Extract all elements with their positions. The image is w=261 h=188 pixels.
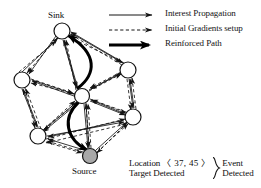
legend-label-reinforced-path: Reinforced Path (165, 38, 222, 49)
sink-label: Sink (48, 10, 64, 20)
node-left[interactable] (14, 72, 30, 88)
node-source[interactable] (83, 149, 98, 164)
node-right-top[interactable] (120, 62, 136, 78)
event-annotation: Location 〈 37, 45 〉 Target Detected Even… (129, 156, 254, 180)
node-sink[interactable] (54, 23, 70, 39)
reinforced-path-center-to-sink (69, 36, 91, 88)
node-center[interactable] (75, 89, 90, 104)
legend-item-interest-propagation: Interest Propagation (108, 6, 258, 20)
event-location-prefix: Location (129, 158, 160, 168)
node-bottom-left[interactable] (30, 128, 46, 144)
node-right-bottom[interactable] (125, 109, 141, 125)
figure-root: Sink Source Interest Propagation (0, 0, 261, 188)
thick-solid-arrow-icon (108, 37, 160, 49)
event-summary-line2: Detected (222, 168, 253, 179)
event-target-line: Target Detected (129, 168, 210, 179)
dashed-arrow-icon (108, 22, 160, 34)
event-detail-lines: Location 〈 37, 45 〉 Target Detected (129, 158, 210, 179)
legend-item-initial-gradients: Initial Gradients setup (108, 21, 258, 35)
curly-brace-icon (212, 156, 221, 180)
event-summary-line1: Event (222, 158, 253, 169)
legend-label-interest-propagation: Interest Propagation (165, 8, 236, 19)
thin-solid-arrow-icon (108, 7, 160, 19)
event-location-line: Location 〈 37, 45 〉 (129, 158, 210, 169)
event-coordinates: 〈 37, 45 〉 (162, 158, 210, 168)
legend-item-reinforced-path: Reinforced Path (108, 36, 258, 50)
legend: Interest Propagation Initial Gradients s… (108, 6, 258, 51)
legend-label-initial-gradients: Initial Gradients setup (165, 23, 243, 34)
source-label: Source (72, 166, 96, 176)
event-summary: Event Detected (222, 158, 253, 179)
